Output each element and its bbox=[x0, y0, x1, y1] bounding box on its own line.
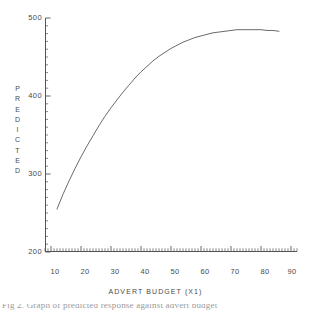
x-tick-label: 80 bbox=[260, 268, 269, 276]
figure-caption: Fig 2. Graph of predicted response again… bbox=[0, 304, 311, 312]
x-tick-label: 20 bbox=[80, 268, 89, 276]
x-tick-label: 30 bbox=[110, 268, 119, 276]
x-axis-title: ADVERT BUDGET (X1) bbox=[0, 288, 311, 295]
x-tick-label: 70 bbox=[230, 268, 239, 276]
x-tick-label: 40 bbox=[140, 268, 149, 276]
x-tick-label: 10 bbox=[50, 268, 59, 276]
x-tick-label: 50 bbox=[170, 268, 179, 276]
x-tick-label-group: 10 20 30 40 50 60 70 80 90 bbox=[0, 0, 311, 312]
x-tick-label: 90 bbox=[287, 268, 296, 276]
x-tick-label: 60 bbox=[200, 268, 209, 276]
chart-figure: 500 400 300 200 P R E D I C T E D 10 20 … bbox=[0, 0, 311, 312]
figure-caption-text: Fig 2. Graph of predicted response again… bbox=[2, 304, 217, 310]
